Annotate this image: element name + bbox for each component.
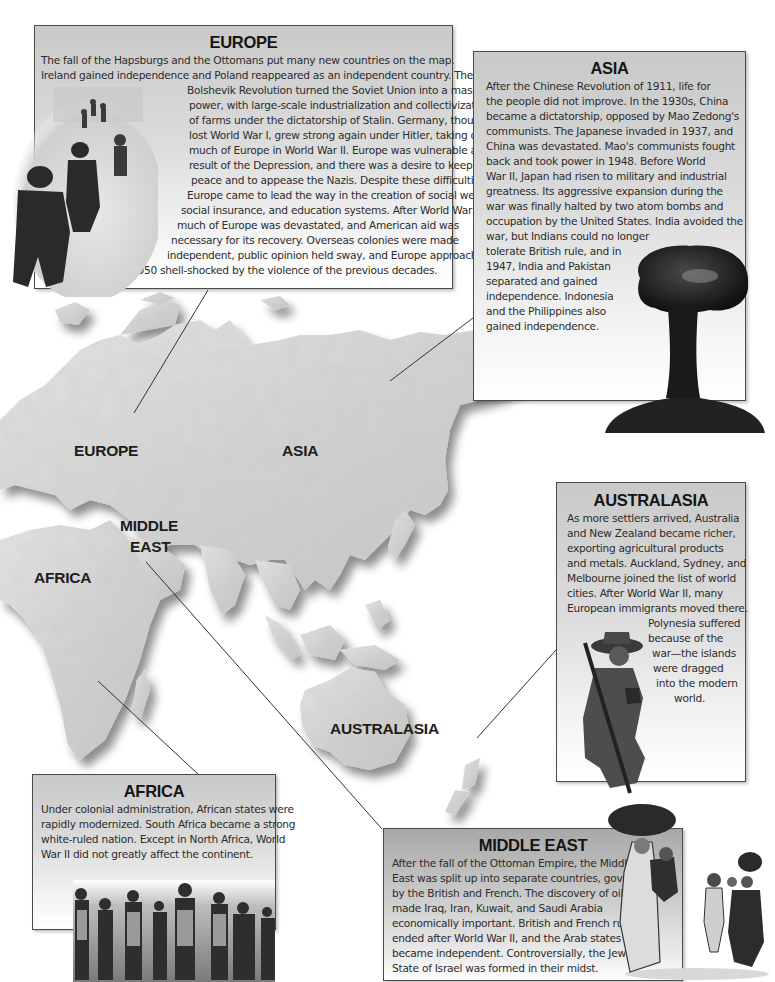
map-label-middle: MIDDLE [120,516,178,536]
map-label-europe: EUROPE [74,441,138,461]
leader-line-africa [98,681,199,775]
box-text-africa: Under colonial administration, African s… [41,802,267,862]
box-title-africa: AFRICA [41,780,267,802]
map-label-asia: ASIA [282,441,318,461]
map-label-australasia: AUSTRALASIA [330,719,439,739]
colonial-soldiers-photo [73,880,275,982]
map-label-africa: AFRICA [34,568,91,588]
mushroom-cloud-illustration [600,238,770,438]
soldiers-wading-illustration [8,82,158,297]
refugee-family-illustration [602,802,772,982]
map-label-east: EAST [130,537,171,557]
box-title-europe: EUROPE [41,31,446,53]
leader-line-australasia [477,650,556,738]
box-title-australasia: AUSTRALASIA [567,489,735,511]
kneeling-soldier-illustration [575,628,655,798]
box-title-asia: ASIA [486,57,733,79]
